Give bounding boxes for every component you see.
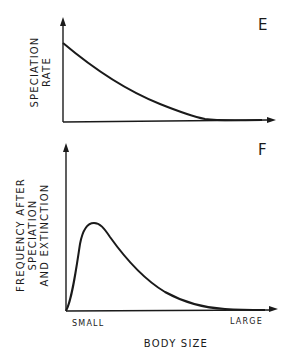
y-axis-label-e-line2: RATE bbox=[41, 57, 52, 87]
frequency-curve bbox=[66, 223, 265, 311]
y-axis-arrow-icon bbox=[63, 143, 69, 152]
panel-f: F FREQUENCY AFTER SPECIATION AND EXTINCT… bbox=[15, 141, 278, 349]
y-axis-label-e-line1: SPECIATION bbox=[29, 36, 40, 107]
y-axis-label-f-line1: FREQUENCY AFTER bbox=[15, 178, 26, 292]
x-axis-arrow-icon bbox=[267, 117, 276, 123]
x-tick-large: LARGE bbox=[230, 317, 263, 326]
speciation-rate-curve bbox=[63, 43, 262, 120]
panel-letter-f: F bbox=[258, 141, 267, 159]
figure: E SPECIATION RATE F FREQUENCY AFTER SPEC… bbox=[0, 0, 292, 360]
y-axis-label-f-line2: SPECIATION bbox=[27, 199, 38, 270]
y-axis-label-f-line3: AND EXTINCTION bbox=[39, 184, 50, 287]
panel-letter-e: E bbox=[258, 16, 267, 34]
x-axis-title: BODY SIZE bbox=[144, 338, 208, 349]
y-axis-arrow-icon bbox=[60, 17, 66, 26]
x-tick-small: SMALL bbox=[72, 319, 104, 328]
panel-e: E SPECIATION RATE bbox=[29, 16, 276, 123]
x-axis-arrow-icon bbox=[269, 306, 278, 312]
